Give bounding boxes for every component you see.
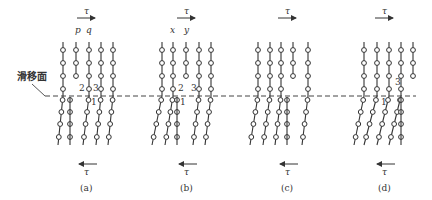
atom bbox=[375, 87, 380, 92]
atom bbox=[58, 122, 63, 127]
atom bbox=[207, 110, 212, 115]
atom bbox=[205, 122, 210, 127]
atom bbox=[267, 98, 272, 103]
atom bbox=[154, 122, 159, 127]
atom bbox=[85, 110, 90, 115]
atom bbox=[411, 61, 416, 66]
atom bbox=[399, 61, 404, 66]
atom bbox=[197, 74, 202, 79]
atom bbox=[98, 98, 103, 103]
atom bbox=[411, 74, 416, 79]
atom bbox=[377, 135, 382, 140]
atom bbox=[255, 98, 260, 103]
atom bbox=[195, 110, 200, 115]
atom bbox=[74, 74, 79, 79]
atom bbox=[367, 122, 372, 127]
atom bbox=[387, 48, 392, 53]
atom bbox=[306, 48, 311, 53]
atom bbox=[256, 87, 261, 92]
atom bbox=[362, 48, 367, 53]
atom bbox=[83, 122, 88, 127]
atom bbox=[375, 74, 380, 79]
atom bbox=[387, 61, 392, 66]
atom bbox=[94, 135, 99, 140]
tau-label-top: τ bbox=[382, 6, 388, 16]
slip-plane-label: 滑移面 bbox=[17, 70, 47, 82]
atom bbox=[383, 110, 388, 115]
atom bbox=[251, 122, 256, 127]
tau-label-bottom: τ bbox=[84, 167, 90, 177]
atom bbox=[370, 110, 375, 115]
atom bbox=[184, 74, 189, 79]
atom bbox=[87, 48, 92, 53]
atom bbox=[356, 122, 361, 127]
column-label: p bbox=[75, 25, 81, 35]
atom bbox=[306, 87, 311, 92]
atom bbox=[387, 74, 392, 79]
atom-number-label: 2 bbox=[79, 83, 85, 93]
atom bbox=[262, 135, 267, 140]
atom bbox=[364, 135, 369, 140]
atom bbox=[256, 48, 261, 53]
atom bbox=[196, 98, 201, 103]
atom bbox=[411, 48, 416, 53]
atom bbox=[193, 122, 198, 127]
atom bbox=[160, 87, 165, 92]
panel-caption: (a) bbox=[80, 183, 92, 193]
atom bbox=[256, 74, 261, 79]
atom bbox=[358, 110, 363, 115]
atom bbox=[61, 74, 66, 79]
atom bbox=[209, 48, 214, 53]
atom-number-label: 3 bbox=[191, 83, 197, 93]
atom bbox=[256, 61, 261, 66]
atom bbox=[249, 135, 254, 140]
atom-number-label: 1 bbox=[180, 97, 186, 107]
atom bbox=[305, 98, 310, 103]
atom bbox=[387, 87, 392, 92]
atom bbox=[275, 122, 280, 127]
atom bbox=[306, 61, 311, 66]
tau-label-bottom: τ bbox=[184, 167, 190, 177]
atom bbox=[374, 98, 379, 103]
atom bbox=[279, 48, 284, 53]
atom bbox=[159, 98, 164, 103]
atom bbox=[399, 48, 404, 53]
tau-label-top: τ bbox=[84, 6, 90, 16]
atom bbox=[291, 61, 296, 66]
slip-plane-leader bbox=[32, 84, 45, 96]
atom bbox=[184, 48, 189, 53]
tau-label-bottom: τ bbox=[382, 167, 388, 177]
atom bbox=[111, 87, 116, 92]
atom-number-label: 1 bbox=[381, 97, 387, 107]
column-label: q bbox=[86, 25, 92, 35]
atom bbox=[204, 135, 209, 140]
atom bbox=[362, 87, 367, 92]
atom bbox=[96, 122, 101, 127]
atom bbox=[399, 87, 404, 92]
atom bbox=[87, 74, 92, 79]
atom bbox=[171, 74, 176, 79]
atom bbox=[99, 48, 104, 53]
atom bbox=[279, 61, 284, 66]
atom bbox=[99, 74, 104, 79]
atom-number-label: 2 bbox=[178, 83, 184, 93]
atom bbox=[264, 122, 269, 127]
atom bbox=[253, 110, 258, 115]
atom bbox=[277, 110, 282, 115]
panel-d: ττ(d)31 bbox=[353, 6, 415, 193]
panel-caption: (d) bbox=[378, 183, 391, 193]
atom bbox=[111, 48, 116, 53]
atom bbox=[74, 48, 79, 53]
atom bbox=[61, 61, 66, 66]
panel-b: ττ(b)xy231 bbox=[151, 6, 213, 193]
atom bbox=[209, 87, 214, 92]
atom bbox=[160, 48, 165, 53]
atom bbox=[362, 74, 367, 79]
atom bbox=[111, 74, 116, 79]
atom bbox=[265, 110, 270, 115]
atom bbox=[209, 74, 214, 79]
atom bbox=[170, 98, 175, 103]
atom bbox=[171, 48, 176, 53]
atom bbox=[97, 110, 102, 115]
atom bbox=[110, 98, 115, 103]
